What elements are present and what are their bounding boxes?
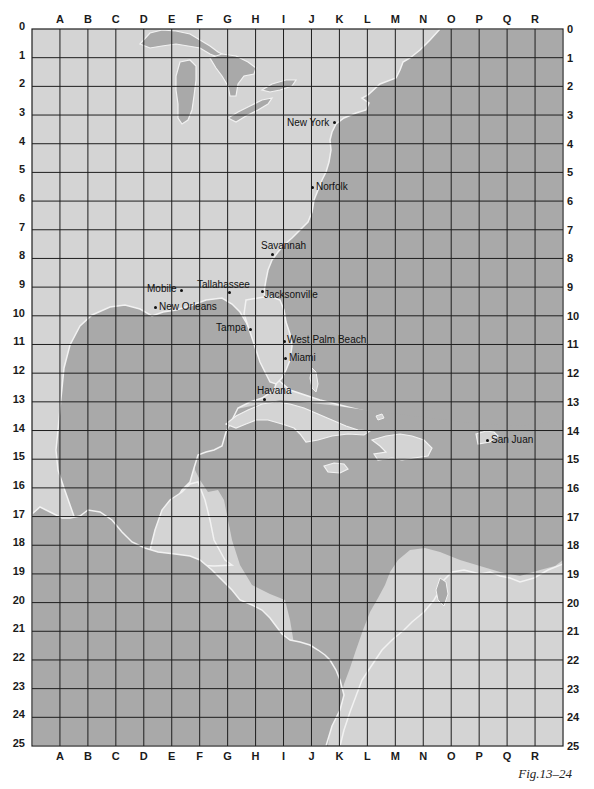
- column-label-P: P: [469, 13, 489, 25]
- row-label-right-7: 7: [567, 224, 573, 236]
- column-label-A: A: [50, 13, 70, 25]
- row-label-left-13: 13: [3, 393, 25, 405]
- row-label-left-11: 11: [3, 335, 25, 347]
- row-label-right-16: 16: [567, 482, 579, 494]
- city-dot-icon: [311, 186, 314, 189]
- row-label-right-18: 18: [567, 539, 579, 551]
- city-dot-icon: [263, 398, 266, 401]
- column-label-M: M: [385, 13, 405, 25]
- column-label-F: F: [190, 750, 210, 762]
- row-label-right-1: 1: [567, 52, 573, 64]
- row-label-left-23: 23: [3, 680, 25, 692]
- row-label-left-3: 3: [3, 106, 25, 118]
- row-label-right-3: 3: [567, 109, 573, 121]
- row-label-left-6: 6: [3, 192, 25, 204]
- row-label-left-2: 2: [3, 77, 25, 89]
- city-label: Tampa: [216, 322, 246, 334]
- row-label-right-10: 10: [567, 310, 579, 322]
- city-dot-icon: [249, 328, 252, 331]
- row-label-left-7: 7: [3, 221, 25, 233]
- row-label-right-24: 24: [567, 711, 579, 723]
- row-label-right-2: 2: [567, 80, 573, 92]
- row-label-left-24: 24: [3, 708, 25, 720]
- column-label-B: B: [78, 13, 98, 25]
- column-label-I: I: [274, 750, 294, 762]
- row-label-left-21: 21: [3, 622, 25, 634]
- column-label-J: J: [301, 13, 321, 25]
- row-label-right-9: 9: [567, 281, 573, 293]
- column-label-O: O: [441, 13, 461, 25]
- city-dot-icon: [283, 340, 286, 343]
- row-label-right-19: 19: [567, 568, 579, 580]
- column-label-Q: Q: [497, 13, 517, 25]
- city-label: Norfolk: [316, 181, 348, 193]
- row-label-right-25: 25: [567, 740, 579, 752]
- row-label-left-20: 20: [3, 594, 25, 606]
- city-dot-icon: [333, 121, 336, 124]
- row-label-left-8: 8: [3, 249, 25, 261]
- row-label-right-6: 6: [567, 195, 573, 207]
- column-label-O: O: [441, 750, 461, 762]
- column-label-D: D: [134, 13, 154, 25]
- row-label-left-5: 5: [3, 163, 25, 175]
- city-label: Mobile: [147, 283, 176, 295]
- column-label-K: K: [329, 13, 349, 25]
- row-label-right-4: 4: [567, 138, 573, 150]
- column-label-G: G: [218, 750, 238, 762]
- column-label-D: D: [134, 750, 154, 762]
- city-label: West Palm Beach: [287, 334, 366, 346]
- row-label-right-14: 14: [567, 425, 579, 437]
- row-label-left-1: 1: [3, 49, 25, 61]
- row-label-right-12: 12: [567, 367, 579, 379]
- city-label: Tallahassee: [197, 279, 250, 291]
- column-label-N: N: [413, 13, 433, 25]
- city-dot-icon: [284, 357, 287, 360]
- column-label-E: E: [162, 750, 182, 762]
- row-label-left-19: 19: [3, 565, 25, 577]
- row-label-left-16: 16: [3, 479, 25, 491]
- row-label-right-13: 13: [567, 396, 579, 408]
- row-label-right-23: 23: [567, 683, 579, 695]
- column-label-I: I: [274, 13, 294, 25]
- column-label-P: P: [469, 750, 489, 762]
- city-dot-icon: [180, 289, 183, 292]
- column-label-H: H: [246, 750, 266, 762]
- figure-caption: Fig.13–24: [518, 766, 572, 782]
- city-label: Havana: [257, 385, 291, 397]
- city-label: Miami: [289, 352, 316, 364]
- column-label-L: L: [357, 13, 377, 25]
- column-label-R: R: [525, 13, 545, 25]
- row-label-left-18: 18: [3, 536, 25, 548]
- column-label-F: F: [190, 13, 210, 25]
- column-label-H: H: [246, 13, 266, 25]
- city-label: Jacksonville: [264, 289, 318, 301]
- row-label-left-0: 0: [3, 20, 25, 32]
- column-label-E: E: [162, 13, 182, 25]
- row-label-left-25: 25: [3, 737, 25, 749]
- column-label-Q: Q: [497, 750, 517, 762]
- city-label: New Orleans: [159, 301, 217, 313]
- row-label-left-22: 22: [3, 651, 25, 663]
- column-label-N: N: [413, 750, 433, 762]
- city-dot-icon: [271, 253, 274, 256]
- column-label-C: C: [106, 750, 126, 762]
- row-label-right-21: 21: [567, 625, 579, 637]
- column-label-J: J: [301, 750, 321, 762]
- row-label-left-15: 15: [3, 450, 25, 462]
- row-label-right-11: 11: [567, 338, 579, 350]
- column-label-M: M: [385, 750, 405, 762]
- row-label-left-14: 14: [3, 422, 25, 434]
- column-label-R: R: [525, 750, 545, 762]
- column-label-A: A: [50, 750, 70, 762]
- city-dot-icon: [228, 291, 231, 294]
- city-label: San Juan: [491, 434, 533, 446]
- column-label-C: C: [106, 13, 126, 25]
- column-label-L: L: [357, 750, 377, 762]
- city-label: Savannah: [261, 240, 306, 252]
- row-label-right-17: 17: [567, 511, 579, 523]
- city-label: New York: [287, 117, 329, 129]
- row-label-left-10: 10: [3, 307, 25, 319]
- row-label-left-12: 12: [3, 364, 25, 376]
- row-label-right-0: 0: [567, 23, 573, 35]
- column-label-G: G: [218, 13, 238, 25]
